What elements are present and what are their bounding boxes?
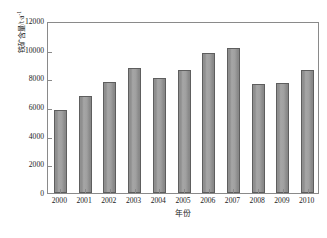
bar <box>252 84 265 193</box>
y-axis-tick-label: 12000 <box>8 18 44 26</box>
y-axis-tick-label: 2000 <box>8 161 44 169</box>
bar <box>103 82 116 193</box>
y-axis-tick-mark <box>48 80 52 81</box>
y-axis-tick-label: 0 <box>8 190 44 198</box>
bar <box>227 48 240 193</box>
bars-layer <box>48 23 318 193</box>
y-axis-tick-label: 4000 <box>8 133 44 141</box>
y-axis-tick-label: 8000 <box>8 75 44 83</box>
y-axis-tick-labels: 020004000600080001000012000 <box>6 0 44 238</box>
bar-chart-figure: 铁矿含量/t·a-1 020004000600080001000012000 2… <box>0 0 327 238</box>
plot-area <box>47 22 319 194</box>
bar <box>301 70 314 193</box>
bar <box>178 70 191 193</box>
y-axis-tick-label: 10000 <box>8 47 44 55</box>
x-axis-tick-mark <box>159 189 160 193</box>
x-axis-tick-label: 2010 <box>290 196 324 206</box>
y-axis-tick-mark <box>48 52 52 53</box>
bar <box>54 110 67 193</box>
x-axis-tick-mark <box>85 189 86 193</box>
bar <box>202 53 215 193</box>
x-axis-tick-labels: 2000200120022003200420052006200720082009… <box>47 196 319 208</box>
bar <box>128 68 141 193</box>
x-axis-tick-mark <box>283 189 284 193</box>
bar <box>79 96 92 193</box>
bar <box>276 83 289 193</box>
y-axis-tick-label: 6000 <box>8 104 44 112</box>
x-axis-tick-mark <box>184 189 185 193</box>
x-axis-tick-mark <box>209 189 210 193</box>
y-axis-tick-mark <box>48 109 52 110</box>
x-axis-tick-mark <box>258 189 259 193</box>
y-axis-tick-mark <box>48 166 52 167</box>
x-axis-title: 年份 <box>47 208 319 220</box>
x-axis-tick-mark <box>60 189 61 193</box>
x-axis-tick-mark <box>110 189 111 193</box>
y-axis-tick-mark <box>48 138 52 139</box>
x-axis-tick-mark <box>233 189 234 193</box>
x-axis-tick-mark <box>135 189 136 193</box>
x-axis-tick-mark <box>308 189 309 193</box>
bar <box>153 78 166 193</box>
